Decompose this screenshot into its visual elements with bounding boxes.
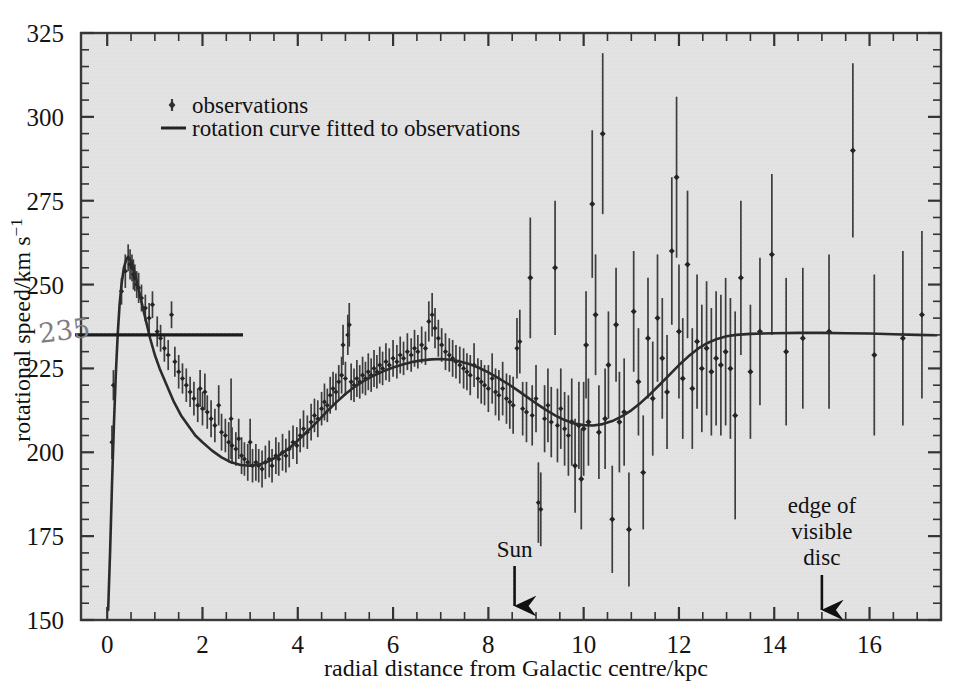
y-tick-label: 325 [27, 20, 65, 47]
x-tick-label: 10 [571, 631, 596, 658]
svg-text:rotational speed/km s−1: rotational speed/km s−1 [7, 218, 35, 441]
handwritten-235-text: 235 [37, 312, 92, 349]
x-tick-label: 2 [196, 631, 209, 658]
rotation-curve-figure: 0246810121416 150175200225250275300325 2… [0, 0, 964, 693]
edge-label-line-3: disc [803, 545, 840, 570]
legend-label-rotation-curve: rotation curve fitted to observations [192, 116, 520, 141]
x-axis-tick-labels: 0246810121416 [101, 631, 882, 658]
y-axis-title-exponent: −1 [7, 218, 26, 236]
y-tick-label: 275 [27, 188, 65, 215]
plot-svg: 0246810121416 150175200225250275300325 2… [0, 0, 964, 693]
y-tick-label: 175 [27, 523, 65, 550]
x-tick-label: 12 [666, 631, 691, 658]
legend-label-observations: observations [192, 93, 308, 118]
y-tick-label: 150 [27, 607, 65, 634]
y-tick-label: 300 [27, 104, 65, 131]
x-tick-label: 16 [857, 631, 882, 658]
edge-label-line-2: visible [791, 519, 852, 544]
x-tick-label: 14 [762, 631, 788, 658]
legend-entry-rotation-curve: rotation curve fitted to observations [161, 116, 520, 141]
x-tick-label: 8 [482, 631, 495, 658]
x-tick-label: 0 [101, 631, 114, 658]
edge-label-line-1: edge of [788, 493, 857, 518]
x-tick-label: 6 [387, 631, 400, 658]
y-axis-title-text: rotational speed/km s [9, 236, 35, 441]
sun-label: Sun [497, 537, 533, 562]
x-axis-title: radial distance from Galactic centre/kpc [324, 655, 708, 681]
y-tick-label: 200 [27, 439, 65, 466]
x-tick-label: 4 [292, 631, 305, 658]
y-axis-title: rotational speed/km s−1 [7, 218, 35, 441]
